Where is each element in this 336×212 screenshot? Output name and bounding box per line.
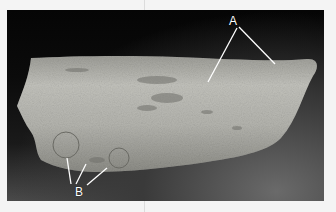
annotation-label-a: A: [229, 15, 237, 27]
bone-fragment-drawing: [7, 10, 324, 201]
bone-shape: [17, 56, 317, 172]
annotation-label-b: B: [75, 186, 83, 198]
bone-photograph: A B: [7, 10, 324, 201]
